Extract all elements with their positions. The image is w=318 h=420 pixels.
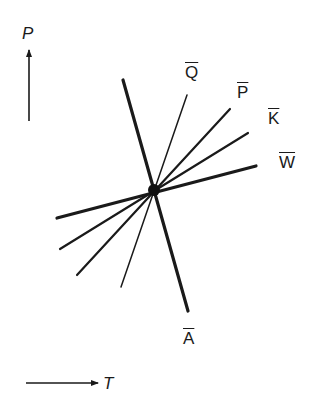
label-w: W <box>279 154 295 171</box>
triple-point <box>148 184 160 196</box>
label-p: P <box>237 84 248 101</box>
y-axis-label: P <box>22 25 33 42</box>
label-k: K <box>268 110 279 127</box>
label-a: A <box>183 330 194 347</box>
label-q: Q <box>185 64 198 81</box>
phase-diagram <box>0 0 318 420</box>
x-axis-label: T <box>103 375 113 392</box>
